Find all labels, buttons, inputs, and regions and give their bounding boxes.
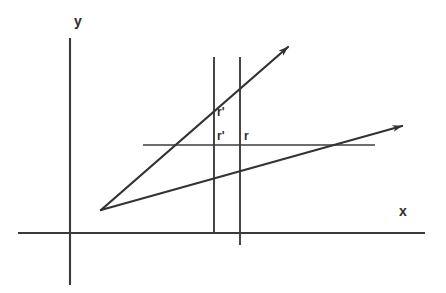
y-axis-label: y — [74, 14, 82, 28]
shallow-ray — [101, 126, 402, 210]
steep-ray — [101, 47, 288, 210]
label-r-prime-lower: r' — [217, 130, 225, 142]
line-diagram-figure: y x r' r' r — [0, 0, 446, 293]
x-axis-label: x — [399, 204, 407, 218]
label-r-prime-upper: r' — [217, 106, 225, 118]
label-r: r — [244, 130, 249, 142]
diagram-canvas — [0, 0, 446, 293]
